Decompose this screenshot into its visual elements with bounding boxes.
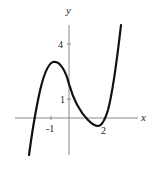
y-tick-label-1: 1 xyxy=(60,94,65,105)
y-axis-label: y xyxy=(65,4,71,16)
x-tick-label-2: 2 xyxy=(101,125,106,136)
cubic-curve xyxy=(29,25,121,155)
x-axis-label: x xyxy=(140,111,146,123)
x-tick-label-neg1: -1 xyxy=(46,123,54,134)
y-tick-label-4: 4 xyxy=(58,39,63,50)
chart-canvas: y x -1 2 1 4 xyxy=(0,0,157,171)
